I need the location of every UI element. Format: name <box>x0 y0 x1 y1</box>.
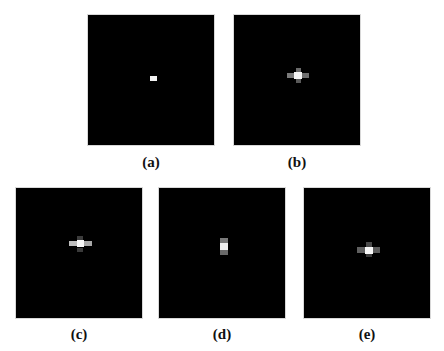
intensity-cell <box>220 243 228 250</box>
panel-label-b: (b) <box>233 154 361 171</box>
image-panel-a <box>87 14 215 146</box>
image-panel-d <box>158 187 286 319</box>
intensity-cell <box>373 247 380 253</box>
intensity-cell <box>84 241 92 246</box>
intensity-cell <box>365 247 373 254</box>
intensity-cell <box>287 73 294 78</box>
intensity-cell <box>357 247 365 253</box>
intensity-cell <box>69 241 77 246</box>
intensity-cell <box>150 76 157 81</box>
intensity-cell <box>302 73 309 78</box>
image-panel-b <box>233 14 361 146</box>
intensity-cell <box>77 240 84 247</box>
intensity-cell <box>296 79 301 83</box>
panel-label-d: (d) <box>158 326 286 343</box>
intensity-cell <box>366 254 372 257</box>
panel-label-a: (a) <box>87 154 215 171</box>
intensity-cell <box>77 248 83 252</box>
panel-label-c: (c) <box>15 326 143 343</box>
image-panel-e <box>303 187 431 319</box>
panel-label-e: (e) <box>303 326 431 343</box>
intensity-cell <box>294 72 302 79</box>
intensity-cell <box>220 250 228 255</box>
image-panel-c <box>15 187 143 319</box>
